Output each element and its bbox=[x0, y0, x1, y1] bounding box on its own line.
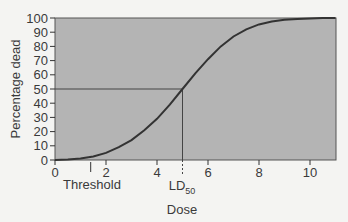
svg-text:100: 100 bbox=[26, 11, 48, 26]
x-axis-label: Dose bbox=[167, 202, 197, 217]
svg-text:8: 8 bbox=[255, 165, 262, 180]
svg-text:70: 70 bbox=[34, 53, 48, 68]
dose-response-chart: 0102030405060708090100 0246810 Threshold… bbox=[0, 0, 348, 222]
svg-text:4: 4 bbox=[153, 165, 160, 180]
svg-text:80: 80 bbox=[34, 39, 48, 54]
svg-text:6: 6 bbox=[204, 165, 211, 180]
svg-text:0: 0 bbox=[41, 153, 48, 168]
svg-text:30: 30 bbox=[34, 110, 48, 125]
y-axis-ticks: 0102030405060708090100 bbox=[26, 11, 55, 168]
svg-text:20: 20 bbox=[34, 124, 48, 139]
y-axis-label: Percentage dead bbox=[8, 39, 23, 138]
svg-text:0: 0 bbox=[51, 165, 58, 180]
svg-text:10: 10 bbox=[303, 165, 317, 180]
threshold-label: Threshold bbox=[63, 177, 121, 192]
ld50-label: LD50 bbox=[169, 178, 196, 196]
svg-text:40: 40 bbox=[34, 96, 48, 111]
svg-text:10: 10 bbox=[34, 138, 48, 153]
svg-text:90: 90 bbox=[34, 25, 48, 40]
svg-text:60: 60 bbox=[34, 67, 48, 82]
svg-text:50: 50 bbox=[34, 82, 48, 97]
